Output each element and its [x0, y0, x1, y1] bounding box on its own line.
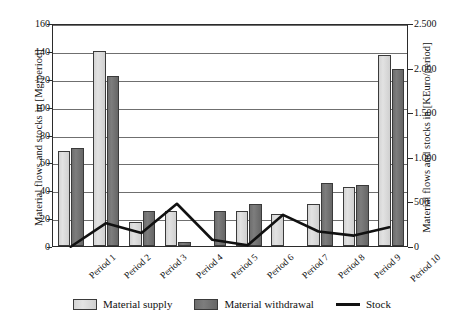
x-tick-label: Period 5 [229, 252, 259, 281]
x-tick-label: Period 7 [301, 252, 331, 281]
y-tick-label-right: 1.000 [414, 153, 462, 163]
x-tick-label: Period 1 [87, 252, 117, 281]
y-tick-label-right: 2.000 [414, 64, 462, 74]
legend-item[interactable]: Material withdrawal [194, 298, 314, 310]
y-tick-mark-right [408, 113, 413, 114]
y-tick-label-left: 60 [10, 158, 50, 168]
y-tick-label-left: 160 [10, 19, 50, 29]
legend-label: Material supply [103, 298, 172, 310]
x-tick-label: Period 3 [158, 252, 188, 281]
y-tick-mark-right [408, 247, 413, 248]
legend-label: Material withdrawal [224, 298, 314, 310]
x-tick-label: Period 2 [123, 252, 153, 281]
y-tick-label-right: 2.500 [414, 19, 462, 29]
y-tick-label-left: 20 [10, 214, 50, 224]
y-tick-label-left: 120 [10, 75, 50, 85]
plot-area [52, 24, 408, 247]
chart-legend: Material supplyMaterial withdrawalStock [0, 298, 464, 310]
y-tick-label-right: 1.500 [414, 108, 462, 118]
stock-line-series [53, 25, 407, 247]
y-tick-label-left: 40 [10, 186, 50, 196]
y-tick-mark-left [47, 247, 52, 248]
y-tick-label-right: 500 [414, 197, 462, 207]
x-axis-labels: Period 1Period 2Period 3Period 4Period 5… [52, 249, 408, 295]
legend-item[interactable]: Material supply [73, 298, 172, 310]
chart-figure: Material flows and stocks in [Mg/period]… [0, 0, 464, 329]
y-tick-label-left: 0 [10, 242, 50, 252]
legend-item[interactable]: Stock [336, 298, 391, 310]
x-tick-label: Period 9 [372, 252, 402, 281]
line-black-icon [336, 303, 360, 306]
swatch-light-icon [73, 299, 97, 310]
x-tick-label: Period 8 [336, 252, 366, 281]
y-tick-label-left: 100 [10, 103, 50, 113]
y-tick-mark-right [408, 69, 413, 70]
y-tick-mark-right [408, 24, 413, 25]
legend-label: Stock [366, 298, 391, 310]
x-tick-label: Period 6 [265, 252, 295, 281]
y-tick-label-left: 140 [10, 47, 50, 57]
x-tick-label: Period 10 [409, 252, 443, 284]
swatch-dark-icon [194, 299, 218, 310]
x-tick-label: Period 4 [194, 252, 224, 281]
stock-line-path [71, 204, 390, 247]
y-tick-mark-right [408, 202, 413, 203]
y-tick-mark-right [408, 158, 413, 159]
y-tick-label-right: 0 [414, 242, 462, 252]
y-tick-label-left: 80 [10, 131, 50, 141]
